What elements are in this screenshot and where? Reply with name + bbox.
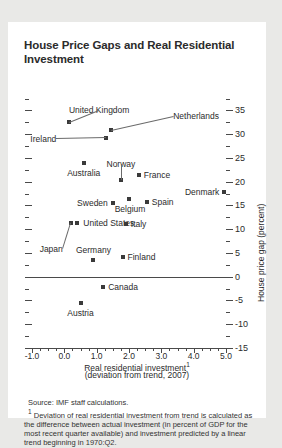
data-point xyxy=(222,190,226,194)
axis-tick-major xyxy=(226,253,233,254)
source-note: Source: IMF staff calculations. xyxy=(28,398,256,407)
axis-tick-minor xyxy=(226,122,230,123)
x-tick-minor xyxy=(186,348,187,351)
axis-tick-major xyxy=(226,324,233,325)
axis-tick-major xyxy=(226,348,233,349)
data-point-label: Spain xyxy=(152,198,174,207)
axis-tick-major xyxy=(226,277,233,278)
data-point xyxy=(121,255,125,259)
y-tick-label: 0 xyxy=(235,272,240,282)
x-tick-minor xyxy=(137,348,138,351)
data-point xyxy=(101,285,105,289)
x-tick-minor xyxy=(113,348,114,351)
axis-tick-major xyxy=(25,182,32,183)
axis-tick-major xyxy=(226,110,233,111)
x-tick-minor xyxy=(202,348,203,351)
axis-tick-major xyxy=(25,229,32,230)
axis-tick-minor xyxy=(226,170,230,171)
footnote-text: Deviation of real residential investment… xyxy=(24,411,252,448)
data-point-label: Germany xyxy=(76,246,111,255)
data-point xyxy=(75,221,79,225)
data-point-label: France xyxy=(144,171,170,180)
axis-tick-major xyxy=(25,324,32,325)
x-tick-minor xyxy=(218,348,219,351)
data-point-label: Italy xyxy=(131,220,147,229)
x-tick-minor xyxy=(121,348,122,351)
axis-tick-major xyxy=(226,300,233,301)
data-point-label: Austria xyxy=(67,308,93,317)
label-leader-line xyxy=(121,164,122,180)
data-point xyxy=(79,301,83,305)
axis-tick-major xyxy=(25,300,32,301)
y-axis-title: House price gap (percent) xyxy=(256,204,266,302)
data-point xyxy=(137,173,141,177)
axis-tick-minor xyxy=(226,99,230,100)
axis-tick-major xyxy=(25,110,32,111)
axis-tick-minor xyxy=(25,336,29,337)
data-point xyxy=(82,161,86,165)
axis-tick-minor xyxy=(25,194,29,195)
axis-tick-minor xyxy=(25,122,29,123)
axis-tick-minor xyxy=(226,312,230,313)
x-tick-minor xyxy=(48,348,49,351)
data-point-label: Ireland xyxy=(30,135,56,144)
x-axis-subtitle: (deviation from trend, 2007) xyxy=(8,370,266,381)
x-axis-title-footnote-marker: 1 xyxy=(186,361,190,368)
data-point-label: Netherlands xyxy=(173,112,219,121)
axis-tick-minor xyxy=(226,194,230,195)
data-point-label: Belgium xyxy=(115,204,146,213)
x-tick-minor xyxy=(153,348,154,351)
axis-tick-minor xyxy=(25,265,29,266)
y-tick-label: 25 xyxy=(235,153,245,163)
x-tick-minor xyxy=(89,348,90,351)
axis-tick-minor xyxy=(226,265,230,266)
data-point-label: Canada xyxy=(108,283,138,292)
axis-tick-minor xyxy=(25,241,29,242)
y-tick-label: 20 xyxy=(235,177,245,187)
y-tick-label: 15 xyxy=(235,200,245,210)
axis-tick-minor xyxy=(226,241,230,242)
axis-tick-minor xyxy=(25,312,29,313)
axis-tick-major xyxy=(25,158,32,159)
axis-tick-minor xyxy=(226,146,230,147)
figure-notes: Source: IMF staff calculations. 1 Deviat… xyxy=(24,398,256,448)
axis-tick-minor xyxy=(25,170,29,171)
axis-tick-minor xyxy=(226,336,230,337)
axis-tick-major xyxy=(226,182,233,183)
axis-tick-minor xyxy=(226,289,230,290)
data-point-label: Denmark xyxy=(185,187,219,196)
y-tick-label: 5 xyxy=(235,248,240,258)
x-tick-minor xyxy=(145,348,146,351)
x-tick-minor xyxy=(40,348,41,351)
axis-tick-major xyxy=(226,134,233,135)
zero-reference-line xyxy=(32,277,226,278)
label-leader-line xyxy=(111,116,173,131)
x-tick-minor xyxy=(178,348,179,351)
x-tick-minor xyxy=(105,348,106,351)
x-tick-minor xyxy=(72,348,73,351)
footnote: 1 Deviation of real residential investme… xyxy=(24,407,256,447)
axis-tick-major xyxy=(226,229,233,230)
data-point-label: Australia xyxy=(67,168,100,177)
axis-tick-minor xyxy=(25,146,29,147)
axis-tick-minor xyxy=(25,217,29,218)
axis-tick-minor xyxy=(226,217,230,218)
x-tick-minor xyxy=(210,348,211,351)
data-point xyxy=(127,197,131,201)
axis-tick-major xyxy=(226,205,233,206)
axis-tick-major xyxy=(25,348,32,349)
axis-tick-minor xyxy=(25,289,29,290)
y-tick-label: -5 xyxy=(235,295,243,305)
data-point xyxy=(91,258,95,262)
y-tick-label: -15 xyxy=(235,343,248,353)
label-leader-line xyxy=(62,223,71,249)
footnote-marker: 1 xyxy=(28,408,32,415)
x-tick-minor xyxy=(56,348,57,351)
y-tick-label: -10 xyxy=(235,319,248,329)
data-point xyxy=(124,222,128,226)
x-tick-minor xyxy=(169,348,170,351)
scatter-plot-area: 35302520151050-5-10-15 -1.00.01.02.03.04… xyxy=(32,108,226,348)
data-point-label: Sweden xyxy=(77,199,108,208)
axis-tick-minor xyxy=(25,99,29,100)
